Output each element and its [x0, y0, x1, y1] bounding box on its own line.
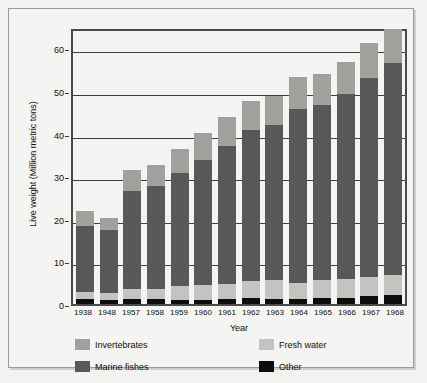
bar-column[interactable] — [360, 43, 378, 304]
bar-column[interactable] — [313, 74, 331, 304]
y-axis-tick-mark — [65, 136, 69, 137]
bar-segment-other — [337, 298, 355, 304]
bar-segment-marine-fishes — [242, 130, 260, 281]
x-axis-ticks: 1938194819571958195919601961196219631964… — [71, 308, 407, 322]
legend-item[interactable]: Marine fishes — [75, 361, 149, 372]
bar-column[interactable] — [194, 133, 212, 304]
y-axis-tick-mark — [65, 263, 69, 264]
bar-segment-other — [242, 298, 260, 304]
bar-segment-marine-fishes — [265, 125, 283, 280]
bar-segment-fresh-water — [337, 279, 355, 298]
bar-segment-other — [265, 299, 283, 304]
bar-segment-fresh-water — [147, 289, 165, 299]
bar-segment-marine-fishes — [171, 173, 189, 286]
bar-segment-invertebrates — [242, 101, 260, 130]
bar-column[interactable] — [147, 165, 165, 304]
bar-segment-fresh-water — [171, 286, 189, 300]
bar-segment-marine-fishes — [218, 146, 236, 284]
bar-column[interactable] — [218, 117, 236, 304]
bar-column[interactable] — [76, 211, 94, 304]
bar-segment-other — [147, 299, 165, 304]
y-axis-tick-label: 40 — [54, 131, 64, 141]
bar-segment-fresh-water — [218, 284, 236, 299]
bar-segment-fresh-water — [289, 283, 307, 299]
legend-label: Invertebrates — [95, 340, 148, 350]
legend-label: Marine fishes — [95, 362, 149, 372]
y-axis-tick-mark — [65, 306, 69, 307]
chart-frame: Live weight (Million metric tons) 010203… — [8, 8, 414, 368]
legend-label: Other — [279, 362, 302, 372]
y-axis-tick-mark — [65, 50, 69, 51]
bar-column[interactable] — [100, 218, 118, 304]
bar-segment-fresh-water — [313, 280, 331, 298]
x-axis-tick-label: 1965 — [314, 308, 332, 322]
bar-segment-other — [171, 300, 189, 304]
x-axis-tick-label: 1967 — [362, 308, 380, 322]
y-axis-tick-mark — [65, 178, 69, 179]
bar-segment-fresh-water — [76, 292, 94, 299]
x-axis-tick-label: 1960 — [194, 308, 212, 322]
bar-segment-invertebrates — [384, 29, 402, 63]
bar-segment-other — [76, 299, 94, 304]
y-axis-tick-label: 20 — [54, 216, 64, 226]
x-axis-tick-label: 1964 — [290, 308, 308, 322]
bar-segment-other — [218, 299, 236, 304]
bar-column[interactable] — [171, 149, 189, 304]
bar-segment-invertebrates — [337, 62, 355, 94]
bar-column[interactable] — [384, 29, 402, 304]
bar-segment-fresh-water — [242, 281, 260, 298]
x-axis-tick-label: 1959 — [170, 308, 188, 322]
legend-item[interactable]: Fresh water — [259, 339, 327, 350]
bar-segment-other — [384, 295, 402, 304]
bar-segment-marine-fishes — [360, 78, 378, 277]
x-axis-tick-label: 1938 — [74, 308, 92, 322]
bar-segment-invertebrates — [147, 165, 165, 186]
bar-column[interactable] — [337, 62, 355, 304]
bar-segment-fresh-water — [100, 293, 118, 300]
bar-segment-other — [123, 299, 141, 304]
bar-segment-marine-fishes — [194, 160, 212, 286]
y-axis-tick-mark — [65, 221, 69, 222]
y-axis-tick-label: 10 — [54, 258, 64, 268]
x-axis-tick-label: 1957 — [122, 308, 140, 322]
bar-segment-other — [194, 300, 212, 304]
bar-segment-fresh-water — [384, 275, 402, 295]
bar-segment-invertebrates — [76, 211, 94, 225]
legend-swatch — [75, 361, 90, 372]
legend-swatch — [75, 339, 90, 350]
y-axis-tick-label: 30 — [54, 173, 64, 183]
bar-column[interactable] — [123, 170, 141, 304]
bar-segment-other — [313, 298, 331, 304]
x-axis-tick-label: 1962 — [242, 308, 260, 322]
y-axis-ticks: 0102030405060 — [9, 29, 69, 306]
bar-segment-invertebrates — [100, 218, 118, 230]
y-axis-tick-mark — [65, 93, 69, 94]
legend-swatch — [259, 339, 274, 350]
bar-segment-invertebrates — [313, 74, 331, 105]
bar-segment-fresh-water — [265, 280, 283, 299]
bar-segment-invertebrates — [218, 117, 236, 146]
bar-segment-marine-fishes — [384, 63, 402, 274]
bar-segment-invertebrates — [360, 43, 378, 78]
bar-segment-fresh-water — [123, 289, 141, 299]
bar-segment-marine-fishes — [100, 230, 118, 293]
legend-item[interactable]: Invertebrates — [75, 339, 148, 350]
x-axis-tick-label: 1963 — [266, 308, 284, 322]
x-axis-tick-label: 1961 — [218, 308, 236, 322]
bar-segment-other — [289, 299, 307, 304]
y-axis-tick-label: 60 — [54, 45, 64, 55]
bar-segment-invertebrates — [289, 77, 307, 109]
bar-segment-marine-fishes — [147, 186, 165, 289]
bar-column[interactable] — [242, 101, 260, 304]
bar-column[interactable] — [289, 77, 307, 304]
legend-swatch — [259, 361, 274, 372]
legend-label: Fresh water — [279, 340, 327, 350]
legend-item[interactable]: Other — [259, 361, 302, 372]
bar-column[interactable] — [265, 96, 283, 304]
bar-segment-marine-fishes — [123, 191, 141, 289]
bar-segment-invertebrates — [171, 149, 189, 173]
x-axis-label: Year — [71, 323, 407, 333]
bar-series-container — [73, 31, 405, 304]
x-axis-tick-label: 1966 — [338, 308, 356, 322]
bar-segment-fresh-water — [194, 285, 212, 299]
